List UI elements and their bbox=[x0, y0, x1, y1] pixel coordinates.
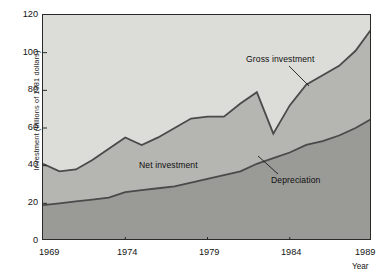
x-tick-label: 1979 bbox=[199, 248, 219, 257]
x-tick-label: 1969 bbox=[39, 248, 59, 257]
x-axis-tick-labels: 1969 1974 1979 1984 1989 bbox=[0, 0, 386, 276]
x-tick-label: 1974 bbox=[117, 248, 137, 257]
x-axis-title: Year bbox=[352, 262, 369, 271]
x-tick-label: 1984 bbox=[281, 248, 301, 257]
x-tick-label: 1989 bbox=[355, 248, 375, 257]
chart-screenshot: Investment (billions of 1981 dollars) 12… bbox=[0, 0, 386, 276]
